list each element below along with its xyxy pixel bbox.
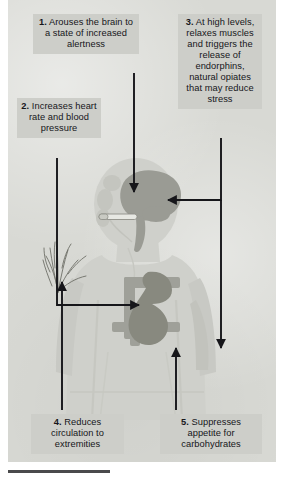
callout-box-4: 4. Reduces circulation to extremities	[31, 414, 124, 454]
callout-5-text: Suppresses appetite for carbohydrates	[181, 417, 241, 449]
callout-box-5: 5. Suppresses appetite for carbohydrates	[160, 414, 262, 454]
callout-2-number: 2.	[21, 101, 29, 111]
callout-box-1: 1. Arouses the brain to a state of incre…	[33, 14, 139, 54]
bottom-divider-rule	[8, 470, 110, 473]
callout-box-2: 2. Increases heart rate and blood pressu…	[17, 98, 101, 138]
cigarette-shape	[99, 214, 137, 220]
callout-3-text: At high levels, relaxes muscles and trig…	[186, 17, 254, 104]
callout-2-text: Increases heart rate and blood pressure	[29, 101, 97, 133]
callout-box-3: 3. At high levels, relaxes muscles and t…	[178, 14, 262, 109]
callout-3-number: 3.	[186, 17, 194, 27]
callout-1-number: 1.	[39, 17, 47, 27]
callout-1-text: Arouses the brain to a state of increase…	[45, 17, 133, 49]
nicotine-effects-figure: 1. Arouses the brain to a state of incre…	[0, 0, 284, 481]
callout-5-number: 5.	[181, 417, 189, 427]
callout-4-number: 4.	[54, 417, 62, 427]
